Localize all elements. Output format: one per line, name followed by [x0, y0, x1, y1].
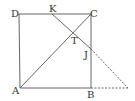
point-label-B: B [87, 89, 94, 100]
point-label-C: C [90, 8, 98, 19]
point-label-A: A [11, 85, 20, 96]
point-label-J: J [83, 49, 88, 60]
segment-AC [20, 14, 91, 88]
point-label-T: T [71, 35, 78, 46]
segment-DA [19, 14, 20, 88]
segment-JE [91, 49, 128, 88]
point-label-K: K [49, 3, 57, 14]
point-label-D: D [11, 8, 19, 19]
geometry-diagram: DKCTJAB [0, 0, 135, 101]
